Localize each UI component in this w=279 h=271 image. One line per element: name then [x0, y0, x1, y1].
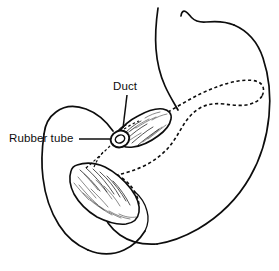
stomach-cardiac-notch — [181, 11, 234, 25]
label-rubber-tube: Rubber tube — [9, 133, 73, 145]
stomach-lesser-curvature — [156, 8, 178, 110]
duodenum-inferior-limb — [88, 231, 145, 254]
stomach-greater-curvature — [157, 25, 270, 244]
figure-root: Duct Rubber tube — [0, 0, 279, 271]
pancreas-tail-tip-dotted — [224, 96, 262, 105]
duodenum-superior-arch — [44, 107, 113, 134]
label-duct: Duct — [113, 81, 137, 93]
